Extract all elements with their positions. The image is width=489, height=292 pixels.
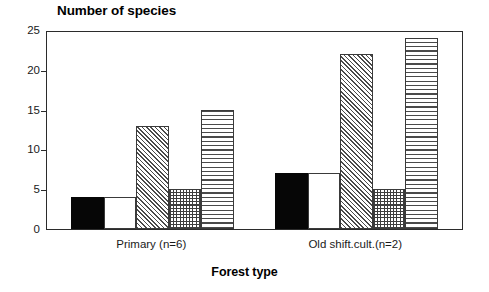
y-axis-tick-label: 10	[0, 144, 40, 156]
bar	[201, 110, 234, 229]
y-axis-tick-label: 20	[0, 65, 40, 77]
y-axis-tick-label: 15	[0, 105, 40, 117]
bar	[275, 173, 308, 229]
bar	[104, 197, 137, 229]
y-axis-tick-mark	[41, 190, 47, 191]
bar	[405, 38, 438, 229]
bar-chart-figure: Number of species 0510152025 Primary (n=…	[0, 0, 489, 292]
bar	[169, 189, 202, 229]
bar	[308, 173, 341, 229]
y-axis-tick-mark	[41, 150, 47, 151]
bar	[71, 197, 104, 229]
plot-area	[46, 31, 463, 230]
bar	[373, 189, 406, 229]
y-axis-tick-label: 25	[0, 25, 40, 37]
bar	[340, 54, 373, 229]
x-axis-category-label: Primary (n=6)	[116, 238, 186, 250]
y-axis-tick-mark	[41, 71, 47, 72]
chart-title: Number of species	[57, 3, 176, 18]
y-axis-tick-label: 0	[0, 224, 40, 236]
bar	[136, 126, 169, 229]
x-axis-title: Forest type	[0, 265, 489, 279]
y-axis-tick-label: 5	[0, 184, 40, 196]
y-axis-tick-mark	[41, 111, 47, 112]
y-axis: 0510152025	[0, 0, 40, 292]
x-axis-category-label: Old shift.cult.(n=2)	[308, 238, 402, 250]
